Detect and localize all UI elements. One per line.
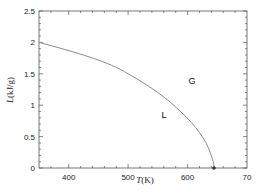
y-tick-label: 1.5 bbox=[24, 70, 36, 79]
y-ticks bbox=[39, 11, 247, 168]
x-ticks bbox=[51, 11, 235, 168]
y-axis-title: L(kJ/g) bbox=[5, 77, 15, 104]
x-tick-label: 600 bbox=[181, 173, 195, 182]
plot-frame bbox=[39, 11, 247, 168]
x-tick-label: 400 bbox=[62, 173, 76, 182]
y-tick-label: 1 bbox=[31, 101, 36, 110]
chart: 0 0.5 1 1.5 2 2.5 400 500 600 70 T(K) L(… bbox=[0, 0, 262, 193]
y-tick-label: 2 bbox=[31, 38, 36, 47]
x-tick-label: 70 bbox=[243, 173, 252, 182]
region-label-gas: G bbox=[188, 76, 195, 86]
y-tick-label: 0.5 bbox=[24, 133, 36, 142]
y-tick-label: 2.5 bbox=[24, 7, 36, 16]
x-tick-label: 500 bbox=[121, 173, 135, 182]
latent-heat-curve bbox=[39, 42, 214, 168]
y-tick-label: 0 bbox=[31, 164, 36, 173]
region-label-liquid: L bbox=[161, 110, 166, 120]
critical-point-marker bbox=[212, 166, 216, 170]
x-axis-title: T(K) bbox=[136, 175, 154, 185]
